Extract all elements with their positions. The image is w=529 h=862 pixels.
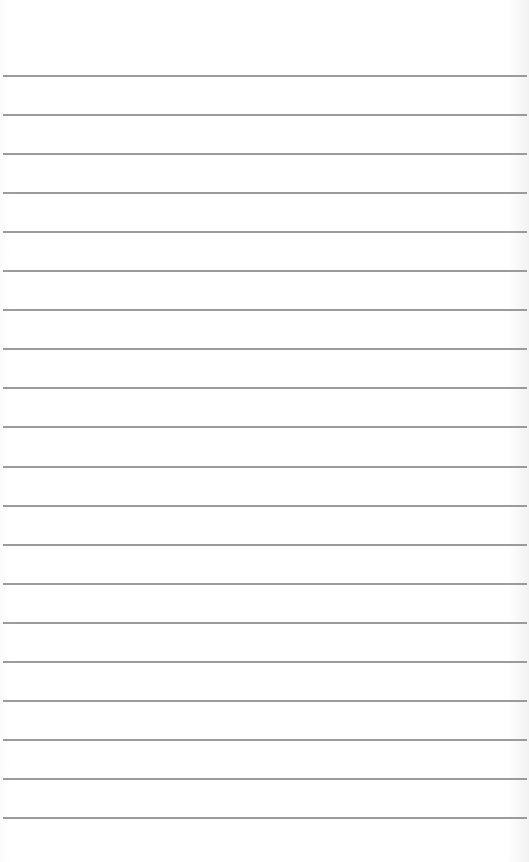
ruled-line (3, 661, 527, 663)
ruled-line (3, 114, 527, 116)
ruled-line (3, 153, 527, 155)
ruled-line (3, 778, 527, 780)
ruled-line (3, 700, 527, 702)
ruled-line (3, 583, 527, 585)
ruled-line (3, 309, 527, 311)
ruled-line (3, 270, 527, 272)
ruled-line (3, 426, 527, 428)
ruled-line (3, 231, 527, 233)
ruled-line (3, 348, 527, 350)
ruled-line (3, 505, 527, 507)
ruled-line (3, 622, 527, 624)
ruled-line (3, 75, 527, 77)
ruled-line (3, 739, 527, 741)
ruled-line (3, 192, 527, 194)
ruled-line (3, 544, 527, 546)
ruled-line (3, 387, 527, 389)
ruled-line (3, 466, 527, 468)
ruled-line (3, 817, 527, 819)
lined-paper-sheet (0, 0, 529, 862)
